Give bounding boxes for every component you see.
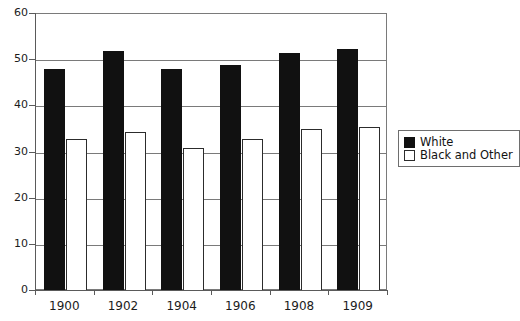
x-tick-mark bbox=[211, 290, 212, 295]
legend-swatch-icon-black-and-other bbox=[404, 150, 415, 161]
plot-area bbox=[35, 13, 387, 290]
y-tick-label: 0 bbox=[4, 284, 28, 295]
bar-1902-white bbox=[103, 51, 124, 291]
x-tick-mark bbox=[94, 290, 95, 295]
legend-swatch-icon-white bbox=[404, 137, 415, 148]
legend-label-black-and-other: Black and Other bbox=[420, 149, 513, 161]
y-tick-label: 60 bbox=[4, 7, 28, 18]
bar-1902-black-and-other bbox=[125, 132, 146, 291]
y-tick: 30 bbox=[0, 146, 28, 157]
bar-1904-black-and-other bbox=[183, 148, 204, 291]
gridline bbox=[36, 245, 386, 246]
x-tick-mark bbox=[270, 290, 271, 295]
x-tick-label-1904: 1904 bbox=[152, 299, 211, 313]
x-tick-label-1909: 1909 bbox=[328, 299, 387, 313]
bar-1908-black-and-other bbox=[301, 129, 322, 291]
y-tick: 60 bbox=[0, 7, 28, 18]
y-axis-line bbox=[35, 13, 36, 291]
bar-1900-white bbox=[44, 69, 65, 291]
y-tick-label: 30 bbox=[4, 146, 28, 157]
gridline bbox=[36, 199, 386, 200]
x-tick-mark bbox=[328, 290, 329, 295]
y-tick-label: 50 bbox=[4, 53, 28, 64]
x-tick-mark bbox=[152, 290, 153, 295]
legend-item-black-and-other: Black and Other bbox=[404, 149, 513, 161]
x-tick-label-1908: 1908 bbox=[270, 299, 329, 313]
x-tick-label-1906: 1906 bbox=[211, 299, 270, 313]
y-tick: 50 bbox=[0, 53, 28, 64]
y-tick-label: 20 bbox=[4, 192, 28, 203]
bar-1904-white bbox=[161, 69, 182, 291]
gridline bbox=[36, 153, 386, 154]
legend-label-white: White bbox=[420, 136, 453, 148]
y-tick: 10 bbox=[0, 238, 28, 249]
bar-1909-white bbox=[337, 49, 358, 291]
gridline bbox=[36, 106, 386, 107]
gridline bbox=[36, 60, 386, 61]
x-tick-label-1902: 1902 bbox=[94, 299, 153, 313]
x-tick-mark bbox=[35, 290, 36, 295]
legend-item-white: White bbox=[404, 136, 513, 148]
bar-1906-black-and-other bbox=[242, 139, 263, 291]
chart-legend: White Black and Other bbox=[398, 130, 520, 167]
x-tick-mark bbox=[387, 290, 388, 295]
y-tick-label: 40 bbox=[4, 99, 28, 110]
y-tick: 40 bbox=[0, 99, 28, 110]
y-tick-label: 10 bbox=[4, 238, 28, 249]
y-tick: 20 bbox=[0, 192, 28, 203]
bar-1906-white bbox=[220, 65, 241, 291]
bar-1900-black-and-other bbox=[66, 139, 87, 291]
bar-1908-white bbox=[279, 53, 300, 291]
y-tick: 0 bbox=[0, 284, 28, 295]
bar-1909-black-and-other bbox=[359, 127, 380, 291]
x-tick-label-1900: 1900 bbox=[35, 299, 94, 313]
